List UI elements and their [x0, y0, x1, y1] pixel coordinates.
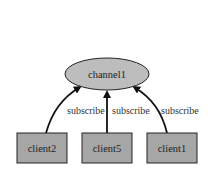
client-label: client5 [93, 143, 122, 154]
channel-label: channel1 [88, 69, 126, 80]
client-node-client2: client2 [17, 133, 67, 163]
edge-label-client2: subscribe [67, 105, 105, 116]
client-label: client2 [28, 143, 57, 154]
client-node-client5: client5 [82, 133, 132, 163]
client-node-client1: client1 [147, 133, 197, 163]
edge-label-client1: subscribe [161, 105, 199, 116]
pubsub-diagram: subscribe subscribe subscribe channel1 c… [0, 0, 215, 176]
client-label: client1 [158, 143, 187, 154]
channel-node: channel1 [65, 58, 149, 90]
edge-label-client5: subscribe [112, 105, 150, 116]
